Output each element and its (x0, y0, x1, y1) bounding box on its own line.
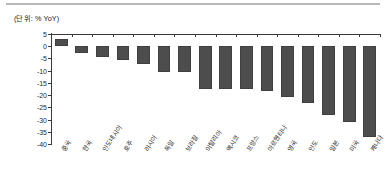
bar (199, 46, 212, 89)
bar (137, 46, 150, 64)
x-tick-mark (318, 34, 319, 37)
top-divider (6, 3, 380, 5)
bar (240, 46, 253, 89)
x-tick-mark (298, 34, 299, 37)
chart-figure: (단위: % YoY) 50-5-10-15-20-25-30-35-40 중국… (0, 0, 386, 189)
y-tick-label: -20 (37, 92, 47, 99)
bar (363, 46, 376, 137)
bar (261, 46, 274, 91)
x-tick-mark (236, 34, 237, 37)
x-tick-mark (174, 34, 175, 37)
unit-label: (단위: % YoY) (14, 13, 59, 23)
x-tick-mark (257, 34, 258, 37)
x-tick-mark (92, 34, 93, 37)
bar (117, 46, 130, 60)
x-tick-mark (339, 34, 340, 37)
bar (96, 46, 109, 57)
x-tick-mark (380, 34, 381, 37)
bar (302, 46, 315, 103)
x-axis-category-labels: 중국한국인도네시아호주러시아독일브라질이탈리아멕시코프랑스아르헨티나영국인도일본… (51, 148, 380, 189)
y-tick-label: 5 (43, 31, 47, 38)
y-tick-label: -30 (37, 116, 47, 123)
y-tick-label: -35 (37, 128, 47, 135)
y-tick-label: 0 (43, 43, 47, 50)
bar (281, 46, 294, 97)
y-tick-label: -15 (37, 79, 47, 86)
bar (322, 46, 335, 115)
bar (343, 46, 356, 121)
x-tick-mark (133, 34, 134, 37)
x-tick-mark (359, 34, 360, 37)
x-tick-mark (154, 34, 155, 37)
y-tick-label: -40 (37, 141, 47, 148)
bar (158, 46, 171, 71)
y-tick-label: -5 (41, 55, 47, 62)
x-tick-mark (113, 34, 114, 37)
x-tick-mark (216, 34, 217, 37)
bar (55, 39, 68, 46)
bar (75, 46, 88, 53)
x-tick-mark (195, 34, 196, 37)
bar (219, 46, 232, 89)
x-tick-mark (277, 34, 278, 37)
y-tick-label: -10 (37, 67, 47, 74)
y-axis-tick-labels: 50-5-10-15-20-25-30-35-40 (14, 34, 47, 144)
bar (178, 46, 191, 72)
y-tick-label: -25 (37, 104, 47, 111)
x-tick-mark (72, 34, 73, 37)
